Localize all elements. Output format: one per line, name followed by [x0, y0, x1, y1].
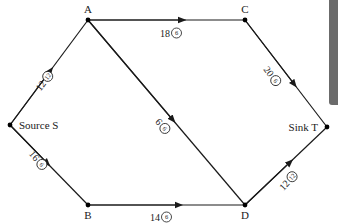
- edge-labels-layer: 1212186206661661461212: [27, 28, 299, 223]
- side-scroll-bar[interactable]: [329, 0, 338, 105]
- edge-s-b: [10, 125, 88, 205]
- edge-c-t: [245, 20, 327, 127]
- edge-label: 186: [160, 28, 182, 39]
- edges-layer: [10, 20, 327, 205]
- node-dot-icon[interactable]: [86, 18, 91, 23]
- node-label: A: [84, 3, 92, 15]
- node-dot-icon[interactable]: [243, 18, 248, 23]
- edge-a-d: [88, 20, 245, 205]
- node-label: D: [241, 209, 249, 221]
- node-dot-icon[interactable]: [243, 203, 248, 208]
- capacity-label: 18: [160, 28, 170, 39]
- node-label: B: [84, 209, 91, 221]
- edge-label: 146: [150, 212, 172, 223]
- node-s[interactable]: Source S: [8, 119, 59, 131]
- flow-network-diagram: 1212186206661661461212 Source SACBDSink …: [0, 0, 338, 224]
- node-dot-icon[interactable]: [86, 203, 91, 208]
- node-label: C: [241, 3, 248, 15]
- edge-label: 166: [27, 148, 49, 172]
- edge-d-t: [245, 127, 327, 205]
- node-dot-icon[interactable]: [325, 125, 330, 130]
- edge-label: 1212: [33, 69, 55, 93]
- node-dot-icon[interactable]: [8, 123, 13, 128]
- capacity-label: 14: [150, 212, 160, 223]
- edge-label: 66: [153, 116, 172, 136]
- node-label: Sink T: [289, 121, 319, 133]
- edge-label: 206: [261, 64, 283, 88]
- node-label: Source S: [19, 119, 58, 131]
- edge-label: 1212: [277, 169, 300, 192]
